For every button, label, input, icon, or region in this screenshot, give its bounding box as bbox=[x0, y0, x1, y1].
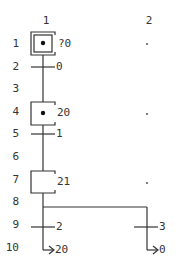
step-label-20: 20 bbox=[57, 107, 70, 119]
jump-arrow-20[interactable] bbox=[43, 246, 54, 254]
step-label-21: 21 bbox=[57, 176, 70, 188]
jump-arrow-0[interactable] bbox=[147, 246, 158, 254]
sfc-diagram: 1 2 1 2 3 4 5 6 7 8 9 10 bbox=[0, 0, 178, 272]
step-label-initial: ?0 bbox=[58, 38, 71, 50]
diagram-lines bbox=[0, 0, 178, 272]
empty-cell-marker bbox=[146, 113, 148, 115]
empty-cell-marker bbox=[146, 182, 148, 184]
empty-cell-marker bbox=[146, 43, 148, 45]
transition-label-3: 3 bbox=[159, 221, 166, 233]
transition-label-0: 0 bbox=[56, 61, 63, 73]
active-token-icon bbox=[41, 111, 45, 115]
active-token-icon bbox=[41, 41, 45, 45]
step-box-21[interactable] bbox=[31, 171, 55, 193]
transition-label-2: 2 bbox=[56, 221, 63, 233]
jump-label-20: 20 bbox=[55, 244, 68, 256]
transition-label-1: 1 bbox=[56, 128, 63, 140]
jump-label-0: 0 bbox=[159, 244, 166, 256]
